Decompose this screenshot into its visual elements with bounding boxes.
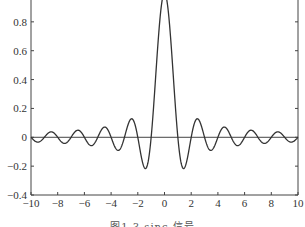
y-tick-label: −0.4 [7, 189, 27, 201]
x-tick-label: −2 [132, 197, 144, 209]
x-tick-label: 8 [269, 197, 275, 209]
y-tick-label: 0.4 [13, 74, 27, 86]
figure-caption: 图1.3 sinc 信号 [0, 218, 305, 227]
tick-labels: −10−8−6−4−20246810−0.4−0.200.20.40.60.8 [7, 16, 304, 209]
sinc-chart: −10−8−6−4−20246810−0.4−0.200.20.40.60.8 [0, 0, 305, 227]
y-tick-label: 0.2 [13, 102, 27, 114]
sinc-curve [31, 0, 298, 169]
axis-ticks [31, 22, 298, 195]
x-tick-label: 6 [242, 197, 248, 209]
x-tick-label: −4 [105, 197, 117, 209]
y-tick-label: 0.8 [13, 16, 27, 28]
x-tick-label: −8 [52, 197, 64, 209]
x-tick-label: 0 [162, 197, 168, 209]
y-tick-label: 0.6 [13, 45, 27, 57]
x-tick-label: −6 [79, 197, 91, 209]
x-tick-label: 2 [188, 197, 194, 209]
x-tick-label: 10 [293, 197, 305, 209]
x-tick-label: 4 [215, 197, 221, 209]
y-tick-label: −0.2 [7, 160, 27, 172]
axes [31, 0, 298, 195]
y-tick-label: 0 [22, 131, 28, 143]
